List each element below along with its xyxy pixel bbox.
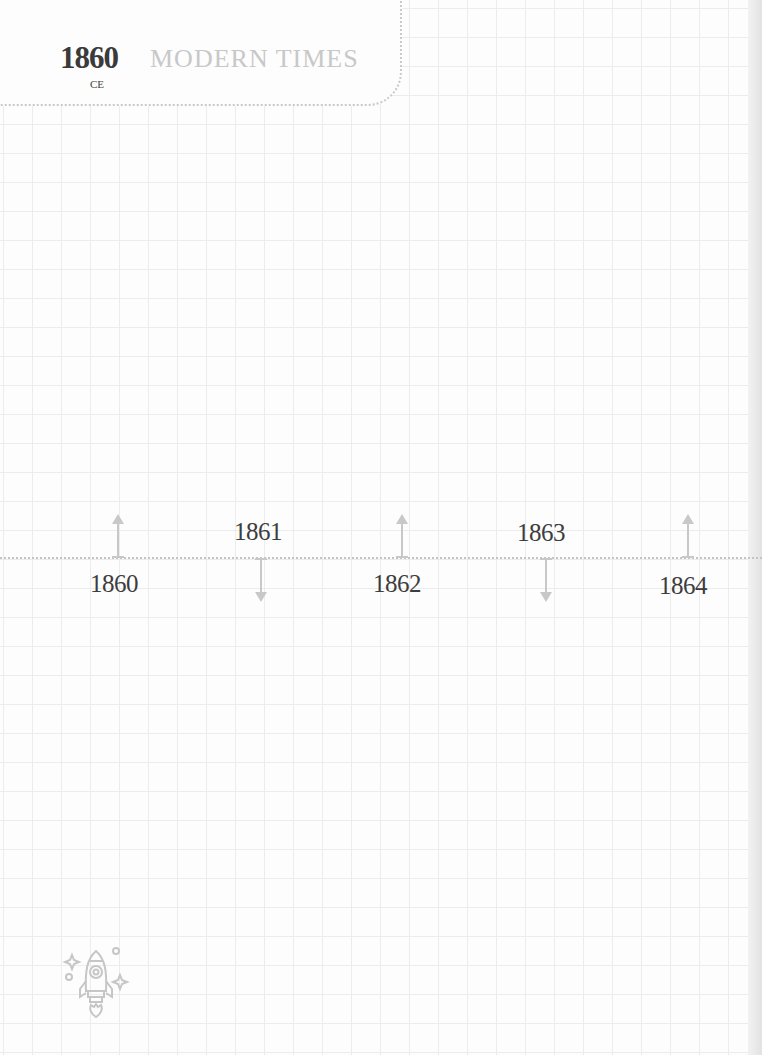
tick-base [255,558,267,560]
arrow-up-icon [117,522,119,557]
grid-background [0,0,762,1055]
arrow-down-icon [260,558,262,594]
timeline-label-1860: 1860 [90,570,138,598]
header-era: CE [90,78,104,90]
rocket-icon [60,945,132,1025]
timeline-label-1864: 1864 [659,572,707,600]
timeline-label-1863: 1863 [517,519,565,547]
header-title: MODERN TIMES [150,44,359,74]
tick-base [112,556,124,558]
arrow-up-icon [401,522,403,557]
tick-base [540,558,552,560]
page-edge-shadow [748,0,762,1055]
tick-base [396,556,408,558]
arrow-down-icon [545,558,547,594]
header-year: 1860 [60,40,118,76]
arrow-up-icon [687,522,689,557]
timeline-label-1861: 1861 [234,518,282,546]
timeline-label-1862: 1862 [373,570,421,598]
tick-base [682,556,694,558]
